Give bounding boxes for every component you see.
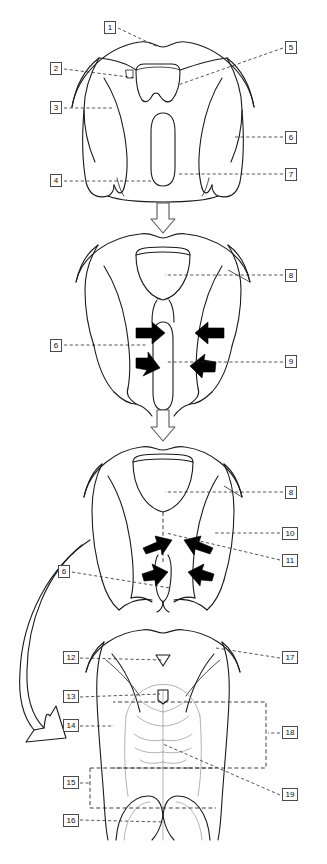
transition-arrow-2 [151,410,175,441]
callout-label-17: 17 [282,651,298,664]
callout-label-8a: 8 [285,269,297,282]
panel-1-drawing [64,28,283,202]
callout-label-4: 4 [50,174,62,187]
callout-label-10: 10 [282,527,298,540]
callout-label-18: 18 [282,726,298,739]
callout-label-15: 15 [63,776,79,789]
callout-label-6b: 6 [50,339,62,352]
callout-label-13: 13 [63,690,79,703]
anatomical-figure: .ln { fill:none; stroke:#1a1a1a; stroke-… [0,0,327,864]
callout-label-1: 1 [104,21,116,34]
callout-label-16: 16 [63,814,79,827]
callout-label-9: 9 [285,355,297,368]
callout-label-14: 14 [63,719,79,732]
callout-label-2: 2 [50,62,62,75]
figure-drawing: .ln { fill:none; stroke:#1a1a1a; stroke-… [0,0,327,864]
callout-label-5: 5 [285,41,297,54]
callout-label-12: 12 [63,651,79,664]
callout-label-19: 19 [282,788,298,801]
transition-arrow-3-curved [20,540,90,742]
callout-label-6c: 6 [58,565,70,578]
panel-2-drawing [64,234,283,416]
panel-3-drawing [72,447,283,612]
transition-arrow-1 [151,203,175,233]
callout-label-6a: 6 [285,131,297,144]
callout-label-11: 11 [282,554,298,567]
callout-label-3: 3 [50,101,62,114]
callout-label-7: 7 [285,168,297,181]
panel-4-drawing [80,630,280,840]
callout-label-8b: 8 [285,486,297,499]
